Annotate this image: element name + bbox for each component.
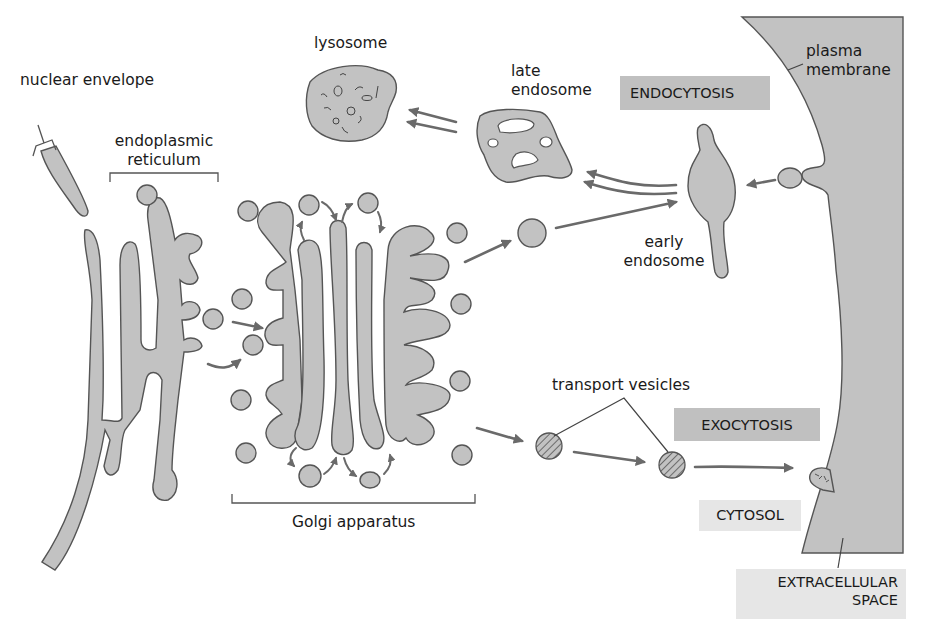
label-nuclear-envelope: nuclear envelope [20, 71, 154, 90]
transport-vesicles-leader [554, 398, 668, 452]
label-pm-line2: membrane [806, 61, 891, 80]
transport-vesicle-1 [536, 433, 562, 459]
golgi-to-endosome-vesicle [518, 219, 546, 247]
cytosol-box: CYTOSOL [699, 500, 801, 531]
exocytosis-box: EXOCYTOSIS [674, 408, 820, 441]
label-transport-vesicles: transport vesicles [552, 376, 690, 395]
extracellular-space-box: EXTRACELLULAR SPACE [736, 569, 906, 619]
label-golgi-apparatus: Golgi apparatus [292, 513, 415, 532]
er-to-golgi-arrow [233, 322, 262, 328]
label-early-endosome: early endosome [614, 233, 714, 271]
label-er-line2: reticulum [108, 151, 220, 170]
label-early-line1: early [614, 233, 714, 252]
label-plasma-membrane: plasma membrane [806, 42, 891, 80]
extracellular-line2: SPACE [744, 591, 898, 609]
golgi-apparatus [231, 193, 472, 488]
label-endoplasmic-reticulum: endoplasmic reticulum [108, 132, 220, 170]
extracellular-line1: EXTRACELLULAR [744, 573, 898, 591]
lysosome [306, 66, 396, 141]
nuclear-envelope [33, 125, 88, 216]
label-late-endosome: late endosome [511, 62, 592, 100]
exocytic-fusion-vesicle [810, 468, 834, 492]
label-late-line2: endosome [511, 81, 592, 100]
transport-vesicle-2 [659, 452, 685, 478]
endocytosis-box: ENDOCYTOSIS [620, 76, 770, 110]
label-late-line1: late [511, 62, 592, 81]
label-er-line1: endoplasmic [108, 132, 220, 151]
label-early-line2: endosome [614, 252, 714, 271]
diagram-canvas [0, 0, 926, 632]
label-lysosome: lysosome [314, 34, 387, 53]
golgi-bracket [232, 494, 475, 503]
label-pm-line1: plasma [806, 42, 891, 61]
late-endosome [477, 109, 572, 182]
endoplasmic-reticulum [42, 173, 223, 570]
er-to-golgi-arrow-curved [208, 360, 240, 367]
endocytic-vesicle [778, 168, 802, 188]
